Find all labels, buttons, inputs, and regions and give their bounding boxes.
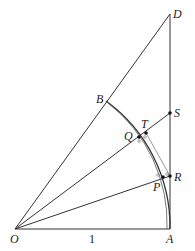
label-Q: Q (124, 129, 133, 143)
segment-TR (146, 133, 170, 176)
label-O: O (10, 232, 19, 246)
label-S: S (174, 106, 180, 120)
angle-marker (166, 173, 169, 176)
segment-OR (15, 176, 170, 229)
point-S (168, 111, 172, 115)
label-T: T (141, 117, 149, 131)
point-T (144, 131, 148, 135)
point-Q (137, 135, 141, 139)
label-D: D (172, 7, 182, 21)
angle-marker (144, 136, 147, 139)
point-R (168, 174, 172, 178)
point-P (161, 175, 165, 179)
label-B: B (96, 92, 104, 106)
geometry-diagram: D B S T Q R P O A 1 (0, 0, 195, 251)
angle-marker (138, 140, 141, 143)
label-length-1: 1 (89, 232, 95, 246)
label-R: R (173, 170, 182, 184)
label-A: A (165, 232, 174, 246)
label-P: P (152, 180, 161, 194)
